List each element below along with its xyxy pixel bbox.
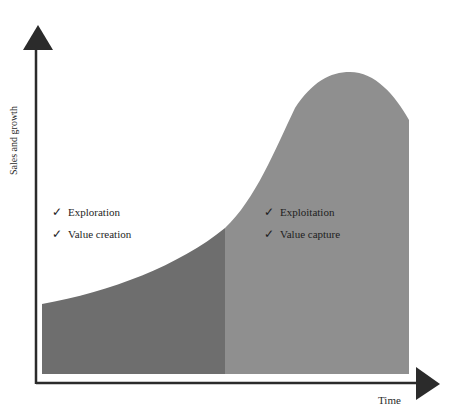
right-phase-item: ✓Value capture <box>264 227 340 242</box>
checkmark-icon: ✓ <box>52 227 62 241</box>
y-axis-label: Sales and growth <box>8 106 19 175</box>
checkmark-icon: ✓ <box>264 227 274 241</box>
item-label: Exploration <box>68 206 120 218</box>
curve-area <box>42 72 409 374</box>
x-axis-label: Time <box>378 394 401 406</box>
left-phase-item: ✓Value creation <box>52 227 131 242</box>
y-axis-arrow-icon <box>23 25 53 50</box>
item-label: Value capture <box>280 228 340 240</box>
left-phase-item: ✓Exploration <box>52 205 120 220</box>
x-axis-arrow-icon <box>416 367 440 400</box>
checkmark-icon: ✓ <box>264 205 274 219</box>
item-label: Exploitation <box>280 206 334 218</box>
checkmark-icon: ✓ <box>52 205 62 219</box>
right-phase-item: ✓Exploitation <box>264 205 334 220</box>
item-label: Value creation <box>68 228 131 240</box>
